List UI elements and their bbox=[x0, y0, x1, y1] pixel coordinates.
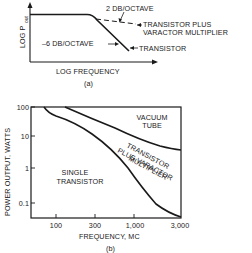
x-tick-label: 3,000 bbox=[171, 221, 190, 230]
figure-canvas: 2 DB/OCTAVE TRANSISTOR PLUS VARACTOR MUL… bbox=[0, 0, 252, 253]
x-tick-label: 300 bbox=[89, 221, 101, 230]
y-axis-label-b: POWER OUTPUT, WATTS bbox=[3, 128, 12, 216]
y-axis-arrow-icon bbox=[28, 2, 33, 8]
x-tick-label: 1,000 bbox=[126, 221, 145, 230]
y-axis-label-a: LOG P out bbox=[18, 15, 29, 48]
slope-transistor-label: –6 DB/OCTAVE bbox=[42, 39, 94, 48]
caption-b: (b) bbox=[106, 244, 115, 253]
y-tick-label: 1 bbox=[25, 164, 29, 173]
y-tick-label: 10 bbox=[21, 132, 29, 141]
single-transistor-label-1: SINGLE bbox=[62, 168, 89, 177]
y-tick-label: 100 bbox=[17, 103, 29, 112]
svg-text:out: out bbox=[23, 15, 29, 23]
figure-a: 2 DB/OCTAVE TRANSISTOR PLUS VARACTOR MUL… bbox=[18, 2, 228, 88]
pointer-arrow-icon bbox=[115, 42, 119, 46]
caption-a: (a) bbox=[84, 79, 93, 88]
svg-text:LOG P: LOG P bbox=[18, 25, 27, 48]
x-axis-label-b: FREQUENCY, MC bbox=[79, 232, 140, 241]
multiplier-label-line2: VARACTOR MULTIPLIER bbox=[143, 28, 228, 37]
vacuum-tube-label-2: TUBE bbox=[142, 121, 162, 130]
slope-multiplier-label: 2 DB/OCTAVE bbox=[106, 4, 154, 13]
x-tick-label: 100 bbox=[50, 221, 62, 230]
multiplier-curve-a bbox=[96, 19, 136, 24]
x-axis-label-a: LOG FREQUENCY bbox=[56, 67, 120, 76]
pointer-arrow-icon bbox=[137, 23, 141, 27]
figure-b: 100 10 1 0.1 100 300 1,000 3,000 VACUUM … bbox=[3, 103, 189, 253]
x-axis-arrow-icon bbox=[152, 60, 158, 65]
single-transistor-label-2: TRANSISTOR bbox=[56, 177, 103, 186]
transistor-label: TRANSISTOR bbox=[139, 44, 186, 53]
y-tick-label: 0.1 bbox=[19, 199, 29, 208]
pointer-arrow-icon bbox=[130, 46, 134, 50]
svg-text:POWER OUTPUT, WATTS: POWER OUTPUT, WATTS bbox=[3, 128, 12, 216]
